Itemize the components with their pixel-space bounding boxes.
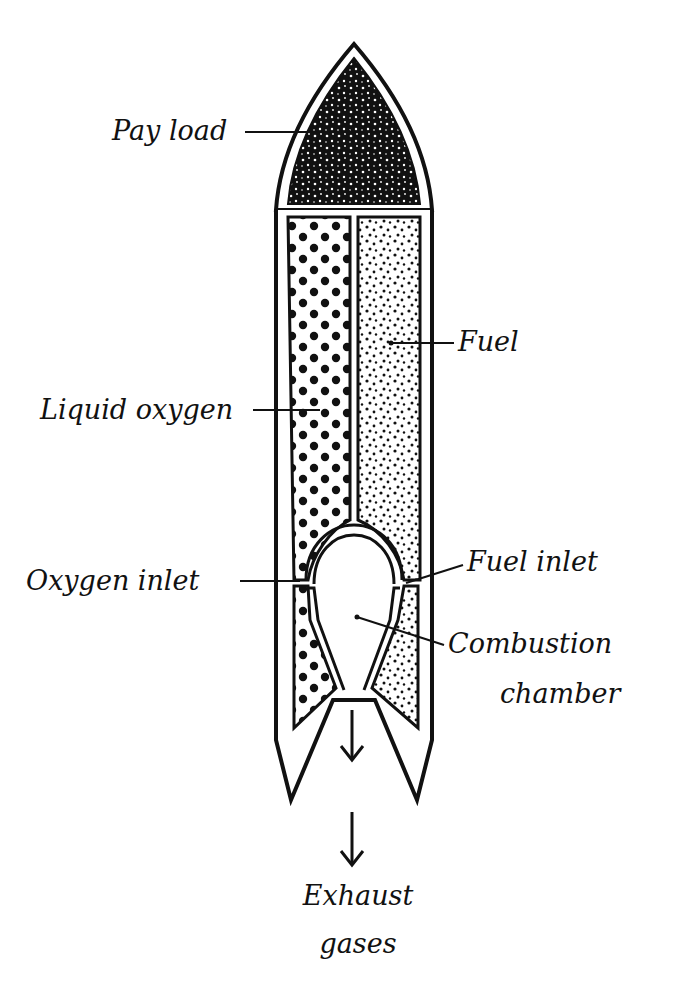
label-fuel: Fuel — [458, 328, 519, 355]
exhaust-arrows — [341, 710, 363, 865]
label-combustion-line2: chamber — [500, 680, 620, 707]
label-liquid-oxygen: Liquid oxygen — [40, 396, 233, 423]
label-combustion-line1: Combustion — [448, 630, 612, 657]
label-exhaust-line2: gases — [319, 930, 396, 957]
payload-section — [276, 44, 432, 210]
label-exhaust-line1: Exhaust — [303, 882, 414, 909]
label-oxygen-inlet: Oxygen inlet — [26, 567, 199, 594]
rocket-diagram — [0, 0, 683, 999]
label-fuel-inlet: Fuel inlet — [467, 548, 598, 575]
label-payload: Pay load — [112, 117, 227, 144]
